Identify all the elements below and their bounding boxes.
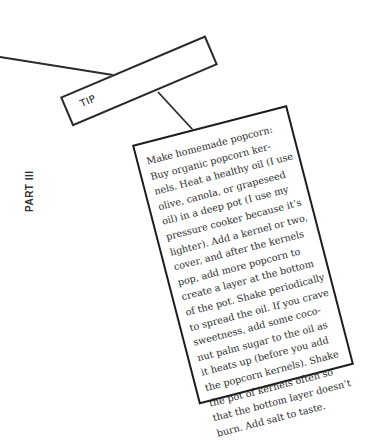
tip-to-card-connector — [158, 92, 193, 130]
tip-label: TIP — [78, 93, 97, 109]
leader-line — [0, 57, 113, 75]
part-label: PART III — [24, 170, 35, 212]
